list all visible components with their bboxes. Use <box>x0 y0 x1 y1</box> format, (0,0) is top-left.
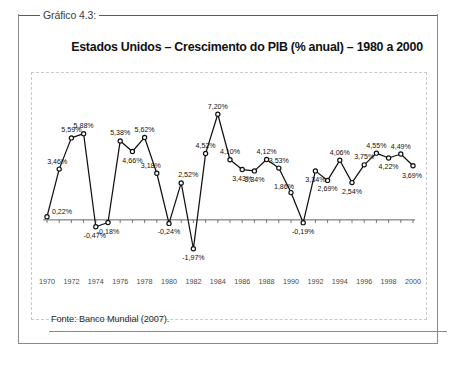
chart-canvas: 1970197219741976197819801982198419861988… <box>31 72 427 320</box>
svg-text:3,34%: 3,34% <box>244 176 265 184</box>
svg-text:1994: 1994 <box>332 277 348 286</box>
svg-text:5,38%: 5,38% <box>110 129 131 137</box>
svg-text:1972: 1972 <box>63 277 79 286</box>
svg-text:3,53%: 3,53% <box>269 157 290 165</box>
chart-title: Estados Unidos – Crescimento do PIB (% a… <box>37 40 457 54</box>
svg-text:7,20%: 7,20% <box>208 103 229 111</box>
svg-text:1980: 1980 <box>161 277 177 286</box>
svg-text:2000: 2000 <box>405 277 421 286</box>
svg-text:4,52%: 4,52% <box>196 142 217 150</box>
svg-text:4,12%: 4,12% <box>257 148 278 156</box>
svg-text:1990: 1990 <box>283 277 299 286</box>
footer-rule <box>49 331 447 332</box>
svg-text:2,52%: 2,52% <box>178 171 199 179</box>
svg-text:3,46%: 3,46% <box>47 158 68 166</box>
svg-text:1986: 1986 <box>234 277 250 286</box>
svg-text:1982: 1982 <box>185 277 201 286</box>
svg-text:-0,19%: -0,19% <box>292 228 315 236</box>
svg-text:1996: 1996 <box>356 277 372 286</box>
svg-text:5,62%: 5,62% <box>135 126 156 134</box>
svg-text:-0,18%: -0,18% <box>97 228 120 236</box>
svg-text:1992: 1992 <box>307 277 323 286</box>
figure-card: Estados Unidos – Crescimento do PIB (% a… <box>18 14 438 344</box>
svg-text:2,69%: 2,69% <box>318 185 339 193</box>
svg-text:4,55%: 4,55% <box>366 142 387 150</box>
svg-text:2,54%: 2,54% <box>342 188 363 196</box>
svg-text:3,18%: 3,18% <box>141 162 162 170</box>
svg-text:1974: 1974 <box>88 277 104 286</box>
svg-text:3,34%: 3,34% <box>305 176 326 184</box>
svg-text:5,88%: 5,88% <box>74 122 95 130</box>
svg-text:1,86%: 1,86% <box>274 183 295 191</box>
svg-text:1976: 1976 <box>112 277 128 286</box>
svg-text:4,10%: 4,10% <box>220 148 241 156</box>
svg-text:-0,24%: -0,24% <box>158 228 181 236</box>
svg-text:-1,97%: -1,97% <box>182 254 205 262</box>
svg-text:1978: 1978 <box>137 277 153 286</box>
line-chart: 1970197219741976197819801982198419861988… <box>31 72 427 320</box>
svg-text:4,49%: 4,49% <box>391 143 412 151</box>
svg-text:1970: 1970 <box>39 277 55 286</box>
svg-text:3,69%: 3,69% <box>402 172 423 180</box>
svg-text:4,22%: 4,22% <box>379 163 400 171</box>
svg-text:1998: 1998 <box>381 277 397 286</box>
svg-text:0,22%: 0,22% <box>52 208 73 216</box>
svg-text:1984: 1984 <box>210 277 226 286</box>
svg-text:4,06%: 4,06% <box>330 149 351 157</box>
svg-text:3,75%: 3,75% <box>354 153 375 161</box>
source-note: Fonte: Banco Mundial (2007). <box>51 314 169 324</box>
svg-text:1988: 1988 <box>259 277 275 286</box>
